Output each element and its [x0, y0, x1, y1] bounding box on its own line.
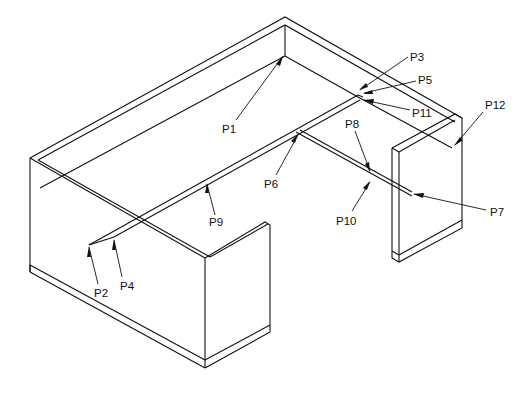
callout-p2: P2 [87, 246, 108, 299]
svg-text:P3: P3 [410, 51, 424, 63]
callout-p1: P1 [222, 56, 283, 135]
svg-text:P5: P5 [418, 74, 432, 86]
svg-text:P11: P11 [412, 107, 432, 119]
desk-isometric-drawing: P1 P2 P3 P4 P5 P6 P7 P8 P9 P10 P11 [0, 0, 531, 393]
callout-p4: P4 [112, 239, 135, 292]
callout-p8: P8 [345, 118, 370, 172]
svg-text:P12: P12 [485, 99, 505, 111]
svg-text:P6: P6 [264, 178, 278, 190]
desk-geometry [30, 17, 462, 368]
svg-text:P9: P9 [209, 216, 223, 228]
svg-text:P8: P8 [345, 118, 359, 130]
svg-text:P2: P2 [94, 287, 108, 299]
callout-p6: P6 [264, 134, 298, 190]
svg-text:P1: P1 [222, 123, 236, 135]
callout-p10: P10 [336, 181, 370, 227]
callout-p9: P9 [205, 183, 223, 228]
svg-text:P7: P7 [490, 206, 504, 218]
callout-p3: P3 [359, 51, 424, 90]
drawing-canvas: P1 P2 P3 P4 P5 P6 P7 P8 P9 P10 P11 [0, 0, 531, 393]
svg-text:P4: P4 [120, 280, 135, 292]
callout-p11: P11 [363, 99, 432, 119]
callout-p7: P7 [413, 193, 504, 218]
svg-text:P10: P10 [336, 215, 356, 227]
callout-p5: P5 [363, 74, 432, 94]
